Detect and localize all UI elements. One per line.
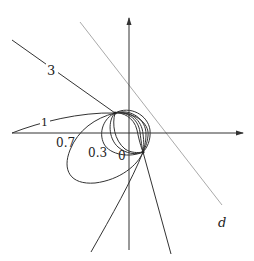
label-3: 3 xyxy=(47,63,55,78)
curve-1 xyxy=(12,113,148,152)
line-below-right xyxy=(143,152,171,254)
point-a xyxy=(113,111,116,114)
label-1: 1 xyxy=(41,116,48,129)
point-b xyxy=(141,150,144,153)
line-below-left xyxy=(91,152,143,252)
label-d: d xyxy=(218,215,226,230)
label-0.3: 0.3 xyxy=(88,146,107,160)
label-0.7: 0.7 xyxy=(56,136,75,150)
diagram-canvas: 3 1 0.7 0.3 0 d xyxy=(0,0,254,261)
label-0: 0 xyxy=(118,149,126,163)
